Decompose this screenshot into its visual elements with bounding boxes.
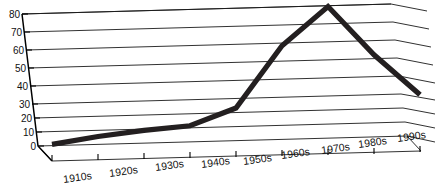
chart-canvas: 80 70 60 50 40 30 20 10 0 1910s 1920s 1	[0, 0, 435, 189]
x-tick-label-1970s: 1970s	[320, 140, 350, 156]
y-tick-label-10: 10	[23, 127, 35, 138]
gridline-40	[30, 76, 435, 86]
series-line	[52, 7, 420, 145]
x-tick-label-1940s: 1940s	[200, 154, 230, 170]
y-tick-label-70: 70	[11, 27, 23, 38]
x-tick-label-1930s: 1930s	[154, 157, 184, 173]
x-tick-label-1910s: 1910s	[62, 169, 92, 185]
x-tick-label-1960s: 1960s	[280, 145, 310, 161]
y-tick-label-50: 50	[15, 63, 27, 74]
y-tick-label-30: 30	[19, 99, 31, 110]
x-tick-label-1990s: 1990s	[396, 128, 426, 144]
y-tick-labels: 80 70 60 50 40 30 20 10 0	[9, 9, 37, 152]
gridline-70	[24, 22, 429, 32]
y-tick-label-20: 20	[21, 113, 33, 124]
y-tick-label-60: 60	[13, 45, 25, 56]
gridline-30	[32, 94, 435, 104]
x-tick-label-1950s: 1950s	[242, 151, 272, 167]
x-tick-label-1920s: 1920s	[108, 163, 138, 179]
series-group	[52, 7, 420, 145]
y-tick-label-40: 40	[17, 81, 29, 92]
gridline-10	[36, 122, 435, 132]
decade-axis-labels: 1910s 1920s 1930s 1940s 1950s 1960s 1970…	[62, 128, 426, 185]
gridline-50	[28, 58, 433, 68]
line-chart: 80 70 60 50 40 30 20 10 0 1910s 1920s 1	[0, 0, 435, 189]
y-tick-label-80: 80	[9, 9, 21, 20]
gridlines-group	[22, 4, 435, 146]
y-tick-label-0: 0	[30, 141, 36, 152]
x-tick-label-1980s: 1980s	[357, 134, 387, 150]
